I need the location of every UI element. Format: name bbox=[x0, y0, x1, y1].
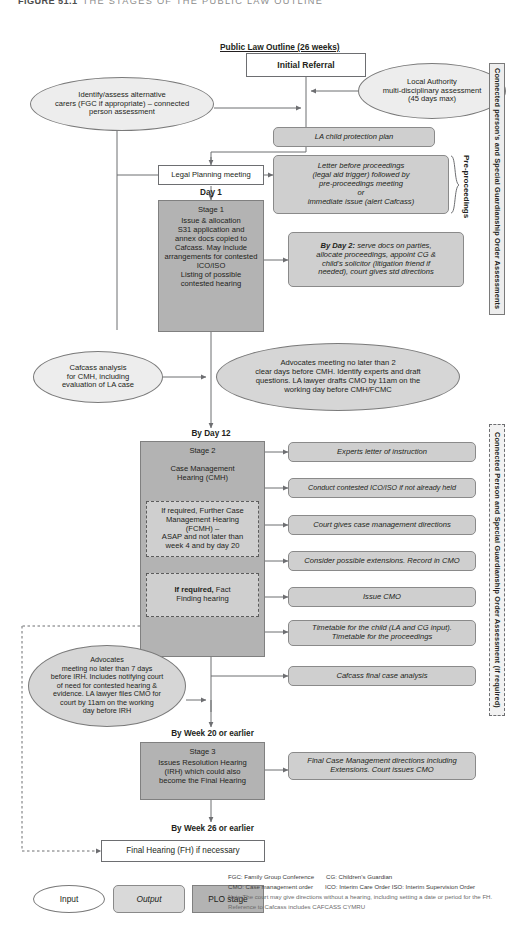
node-stage-1[interactable]: Stage 1 Issue & allocation S31 applicati… bbox=[158, 200, 264, 332]
node-final-case-management-directions[interactable]: Final Case Management directions includi… bbox=[288, 752, 476, 780]
node-stage-2-body: Stage 2 Case Management Hearing (CMH) bbox=[141, 447, 264, 483]
footnote-row-2: CMO: Case management orderICO: Interim C… bbox=[228, 882, 528, 892]
node-fact-finding-body: If required, Fact Finding hearing bbox=[147, 586, 258, 604]
node-fcmh[interactable]: If required, Further Case Management Hea… bbox=[146, 501, 259, 557]
node-timetable[interactable]: Timetable for the child (LA and CG input… bbox=[288, 620, 476, 646]
node-stage-1-detail: Issue & allocation S31 application and a… bbox=[162, 217, 260, 289]
label-by-day-12: By Day 12 bbox=[168, 429, 254, 438]
node-final-case-management-label: Final Case Management directions includi… bbox=[289, 757, 475, 775]
figure-title-text: THE STAGES OF THE PUBLIC LAW OUTLINE bbox=[83, 0, 324, 6]
node-stage-3-title: Stage 3 bbox=[144, 748, 261, 757]
legend-output-label: Output bbox=[136, 894, 161, 904]
label-pre-proceedings: Pre-proceedings bbox=[462, 155, 471, 215]
node-letter-before-proceedings[interactable]: Letter before proceedings (legal aid tri… bbox=[273, 155, 449, 214]
label-by-week-26: By Week 26 or earlier bbox=[155, 824, 270, 833]
side-band-2-label: Connected Person and Special Guardianshi… bbox=[493, 432, 502, 708]
side-band-1-label: Connected person's and Special Guardians… bbox=[493, 68, 502, 309]
node-fact-finding-hearing[interactable]: If required, Fact Finding hearing bbox=[146, 573, 259, 617]
node-final-hearing[interactable]: Final Hearing (FH) if necessary bbox=[101, 840, 265, 862]
node-court-gives-directions[interactable]: Court gives case management directions bbox=[288, 515, 476, 535]
node-issue-cmo-label: Issue CMO bbox=[289, 593, 475, 602]
plo-heading: Public Law Outline (26 weeks) bbox=[220, 42, 340, 52]
node-conduct-contested-label: Conduct contested ICO/ISO if not already… bbox=[289, 484, 475, 492]
footnotes: FGC: Family Group ConferenceCG: Children… bbox=[228, 872, 528, 911]
node-stage-1-title: Stage 1 bbox=[162, 206, 260, 215]
node-fact-finding-prefix: If required, bbox=[174, 585, 213, 594]
node-advocates-meeting-irh[interactable]: Advocates meeting no later than 7 days b… bbox=[28, 645, 186, 727]
node-advocates-meeting-irh-label: Advocates meeting no later than 7 days b… bbox=[29, 656, 185, 715]
node-cafcass-final-label: Cafcass final case analysis bbox=[289, 672, 475, 681]
node-stage-2-title: Stage 2 bbox=[144, 447, 261, 456]
figure-number: FIGURE 51.1 bbox=[18, 0, 78, 6]
node-cafcass-final-case-analysis[interactable]: Cafcass final case analysis bbox=[288, 666, 476, 686]
node-la-child-protection-plan-label: LA child protection plan bbox=[274, 133, 434, 142]
footnote-note-label: Note: bbox=[228, 892, 243, 902]
node-legal-planning-meeting-label: Legal Planning meeting bbox=[159, 171, 263, 180]
footnote-reference: Reference to Cafcass includes CAFCASS CY… bbox=[228, 902, 365, 912]
node-consider-extensions-label: Consider possible extensions. Record in … bbox=[289, 557, 475, 566]
legend-output-shape: Output bbox=[113, 885, 185, 913]
figure-canvas: FIGURE 51.1THE STAGES OF THE PUBLIC LAW … bbox=[0, 0, 529, 944]
node-experts-letter-of-instruction[interactable]: Experts letter of instruction bbox=[288, 442, 476, 462]
node-legal-planning-meeting[interactable]: Legal Planning meeting bbox=[158, 165, 264, 185]
footnote-row-4: Reference to Cafcass includes CAFCASS CY… bbox=[228, 902, 528, 912]
footnote-row-1: FGC: Family Group ConferenceCG: Children… bbox=[228, 872, 528, 882]
node-by-day-2-body: By Day 2: serve docs on parties, allocat… bbox=[289, 242, 463, 278]
node-stage-3[interactable]: Stage 3 Issues Resolution Hearing (IRH) … bbox=[140, 742, 265, 800]
lbp-line-5: immediate issue (alert Cafcass) bbox=[277, 198, 445, 207]
node-final-hearing-label: Final Hearing (FH) if necessary bbox=[102, 846, 264, 856]
node-stage-3-detail: Issues Resolution Hearing (IRH) which co… bbox=[144, 759, 261, 786]
node-la-multidisciplinary-assessment[interactable]: Local Authority multi-disciplinary asses… bbox=[358, 63, 506, 119]
footnote-cmo: CMO: Case management order bbox=[228, 882, 313, 892]
node-cafcass-analysis-label: Cafcass analysis for CMH, including eval… bbox=[34, 364, 162, 391]
node-issue-cmo[interactable]: Issue CMO bbox=[288, 587, 476, 607]
node-initial-referral[interactable]: Initial Referral bbox=[246, 53, 366, 77]
node-identify-assess-carers-label: Identify/assess alternative carers (FGC … bbox=[31, 91, 213, 118]
node-letter-before-proceedings-body: Letter before proceedings (legal aid tri… bbox=[274, 162, 448, 207]
node-stage-3-body: Stage 3 Issues Resolution Hearing (IRH) … bbox=[141, 748, 264, 786]
figure-title: FIGURE 51.1THE STAGES OF THE PUBLIC LAW … bbox=[18, 0, 323, 6]
node-advocates-meeting-cmh[interactable]: Advocates meeting no later than 2 clear … bbox=[216, 343, 460, 411]
node-fcmh-label: If required, Further Case Management Hea… bbox=[147, 507, 258, 552]
node-initial-referral-label: Initial Referral bbox=[247, 60, 365, 70]
node-advocates-meeting-cmh-label: Advocates meeting no later than 2 clear … bbox=[217, 359, 459, 395]
node-by-day-2[interactable]: By Day 2: serve docs on parties, allocat… bbox=[288, 232, 464, 287]
node-stage-1-body: Stage 1 Issue & allocation S31 applicati… bbox=[159, 206, 263, 289]
footnote-fgc: FGC: Family Group Conference bbox=[228, 872, 314, 882]
label-day-1: Day 1 bbox=[186, 188, 236, 197]
label-by-week-20: By Week 20 or earlier bbox=[155, 729, 270, 738]
side-band-connected-person-sgo-assessments: Connected person's and Special Guardians… bbox=[489, 63, 505, 315]
side-band-connected-person-sgo-assessment-if-required: Connected Person and Special Guardianshi… bbox=[489, 424, 505, 716]
pre-proceedings-brace bbox=[450, 155, 462, 215]
node-la-child-protection-plan[interactable]: LA child protection plan bbox=[273, 127, 435, 147]
node-cafcass-analysis-cmh[interactable]: Cafcass analysis for CMH, including eval… bbox=[33, 351, 163, 403]
node-conduct-contested-ico-iso[interactable]: Conduct contested ICO/ISO if not already… bbox=[288, 478, 476, 498]
node-consider-extensions[interactable]: Consider possible extensions. Record in … bbox=[288, 551, 476, 571]
node-court-gives-directions-label: Court gives case management directions bbox=[289, 521, 475, 530]
footnote-note-text: The court may give directions without a … bbox=[243, 892, 493, 902]
footnote-row-3: Note: The court may give directions with… bbox=[228, 892, 528, 902]
node-timetable-label: Timetable for the child (LA and CG input… bbox=[289, 624, 475, 642]
legend-input-label: Input bbox=[60, 894, 79, 904]
legend-input-shape: Input bbox=[33, 885, 105, 913]
footnote-iso: ISO: Interim Supervision Order bbox=[392, 882, 475, 892]
footnote-ico: ICO: Interim Care Order bbox=[325, 882, 390, 892]
node-by-day-2-prefix: By Day 2: bbox=[320, 241, 355, 250]
node-la-assessment-label: Local Authority multi-disciplinary asses… bbox=[359, 78, 505, 105]
footnote-cg: CG: Children's Guardian bbox=[326, 872, 392, 882]
node-stage-2-detail: Case Management Hearing (CMH) bbox=[144, 465, 261, 483]
node-experts-letter-label: Experts letter of instruction bbox=[289, 448, 475, 457]
node-identify-assess-carers[interactable]: Identify/assess alternative carers (FGC … bbox=[30, 77, 214, 131]
